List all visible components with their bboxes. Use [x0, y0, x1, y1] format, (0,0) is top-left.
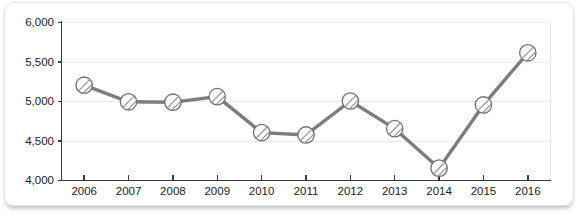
x-axis-ticks — [84, 175, 528, 180]
y-axis-tick-label: 4,500 — [25, 135, 54, 147]
y-axis-tick-label: 6,000 — [25, 16, 54, 28]
x-axis-tick-label: 2011 — [294, 185, 319, 197]
x-axis-tick-label: 2008 — [160, 185, 186, 197]
data-point-marker — [298, 127, 314, 143]
y-axis-tick-label: 5,500 — [25, 56, 54, 68]
x-axis-tick-label: 2016 — [515, 185, 541, 197]
data-point-marker — [209, 88, 225, 104]
data-point-markers — [76, 45, 536, 177]
data-point-marker — [431, 160, 447, 176]
series-line — [84, 53, 528, 168]
data-point-marker — [165, 94, 181, 110]
y-axis-tick-label: 4,000 — [25, 174, 54, 186]
x-axis-tick-label: 2013 — [382, 185, 408, 197]
y-axis-labels: 4,0004,5005,0005,5006,000 — [25, 16, 54, 186]
data-point-marker — [120, 94, 136, 110]
x-axis-tick-label: 2009 — [204, 185, 230, 197]
x-axis-tick-label: 2010 — [249, 185, 275, 197]
x-axis-tick-label: 2015 — [471, 185, 497, 197]
x-axis-labels: 2006200720082009201020112012201320142015… — [71, 185, 540, 197]
line-chart: 4,0004,5005,0005,5006,000 20062007200820… — [5, 3, 574, 206]
x-axis-tick-label: 2014 — [426, 185, 452, 197]
x-axis-tick-label: 2007 — [116, 185, 142, 197]
data-point-marker — [253, 124, 269, 140]
x-axis-tick-label: 2006 — [71, 185, 97, 197]
data-point-marker — [342, 93, 358, 109]
data-point-marker — [520, 45, 536, 61]
data-point-marker — [475, 97, 491, 113]
data-point-marker — [387, 120, 403, 136]
gridlines — [62, 23, 551, 142]
y-axis-tick-label: 5,000 — [25, 95, 54, 107]
chart-card: 4,0004,5005,0005,5006,000 20062007200820… — [4, 2, 574, 206]
x-axis-tick-label: 2012 — [338, 185, 364, 197]
data-point-marker — [76, 77, 92, 93]
